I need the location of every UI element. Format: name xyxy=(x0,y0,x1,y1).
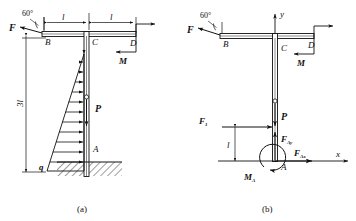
force-label-F1: F1 xyxy=(198,116,208,127)
moment-label-M-a: M xyxy=(118,56,128,66)
node-label-A-a: A xyxy=(92,144,99,154)
fixed-support-a xyxy=(57,162,122,176)
axis-label-x: x xyxy=(335,149,340,159)
reaction-moment-MA-b: MA xyxy=(243,144,286,183)
load-label-q: q xyxy=(39,162,44,172)
force-label-P-b: P xyxy=(281,111,288,122)
force-P-b: P xyxy=(273,99,288,126)
panel-a: l l 60° F B C D A xyxy=(8,9,155,214)
moment-label-M-b: M xyxy=(296,58,306,68)
force-label-F-a: F xyxy=(8,22,16,33)
dimension-top-a: l l xyxy=(44,12,136,33)
dimension-label-l-BC: l xyxy=(62,12,65,22)
panel-b: 60° F y B C D A M xyxy=(186,9,348,214)
dimension-3l-a: 3l xyxy=(15,36,46,172)
force-label-F-b: F xyxy=(186,24,194,35)
force-label-P-a: P xyxy=(95,103,102,114)
angle-label-60-a: 60° xyxy=(22,9,33,18)
node-label-C-b: C xyxy=(281,43,288,53)
angle-label-60-b: 60° xyxy=(200,11,211,20)
dimension-label-l-CD: l xyxy=(110,12,113,22)
node-label-B-a: B xyxy=(45,37,51,47)
force-F-b: 60° F xyxy=(186,11,222,38)
beam-b xyxy=(220,34,314,39)
node-label-B-b: B xyxy=(223,39,229,49)
force-F1-b: F1 xyxy=(198,116,272,127)
dimension-label-l-b: l xyxy=(227,140,230,150)
reaction-label-FAy: FAy xyxy=(280,134,293,145)
panel-caption-b: (b) xyxy=(262,204,273,214)
axis-label-y: y xyxy=(279,9,284,19)
dimension-l-b: l xyxy=(227,127,235,161)
distributed-load-q: q xyxy=(39,54,84,172)
force-F-a: 60° F xyxy=(8,9,44,36)
reaction-label-FAx: FAx xyxy=(293,148,306,159)
reaction-label-MA: MA xyxy=(243,172,256,183)
node-label-C-a: C xyxy=(92,37,99,47)
dimension-label-3l: 3l xyxy=(15,100,25,109)
engineering-figure: l l 60° F B C D A xyxy=(0,0,356,221)
panel-caption-a: (a) xyxy=(77,204,87,214)
